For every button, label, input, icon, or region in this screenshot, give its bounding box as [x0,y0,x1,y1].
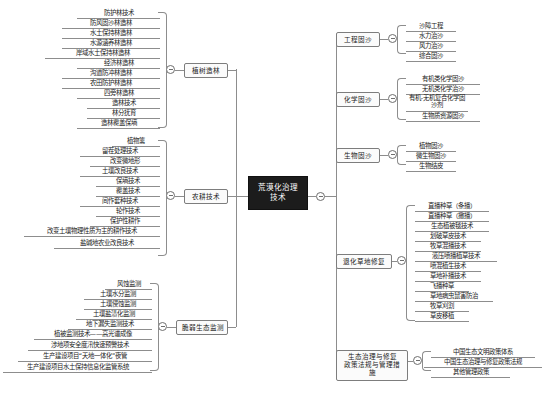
leaf-left-2-2[interactable]: 土壤侵蚀监测 [84,300,152,310]
branch-left-1-stem2 [175,196,184,197]
leaf-right-0-3[interactable]: 综合固沙 [406,52,456,62]
leaf-left-0-6[interactable]: 沟道防冲林造林 [62,69,160,79]
leaf-right-3-10[interactable]: 牧草刈割 [415,302,469,312]
leaf-right-3-11[interactable]: 草皮移植 [415,312,469,322]
branch-right-3-knob[interactable] [397,256,406,265]
branch-right-0-stem [380,39,388,40]
branch-right-4-line2: 政策法规与管理措施 [344,361,400,377]
center-collapse-knob[interactable] [316,192,325,201]
leaf-right-1-0[interactable]: 有机类化学固沙 [406,75,480,85]
branch-right-1-knob[interactable] [388,94,397,103]
leaf-left-0-10[interactable]: 林分抚育 [87,109,160,119]
leaf-right-3-6[interactable]: 喷混植生技术 [415,262,481,272]
branch-left-2-stem2 [167,327,176,328]
branch-right-2-bracket [397,145,406,165]
branch-left-2[interactable]: 脆弱生态监测 [176,320,228,335]
leaf-left-0-0[interactable]: 防护林技术 [77,9,160,19]
leaf-right-3-8[interactable]: 飞播种草 [415,282,469,292]
leaf-left-2-8[interactable]: 生产建设项目水土保持信息化监管系统 [3,363,152,373]
branch-right-4-knob[interactable] [413,356,422,365]
branch-left-0-stem2 [175,70,184,71]
leaf-right-3-2[interactable]: 生态植被毯技术 [415,222,489,232]
leaf-right-3-4[interactable]: 牧草混播技术 [415,242,481,252]
branch-right-2[interactable]: 生物固沙 [336,148,380,163]
leaf-left-1-3[interactable]: 土壤改良技术 [80,167,160,177]
leaf-left-2-1[interactable]: 土壤水分监测 [84,290,152,300]
leaf-right-3-7[interactable]: 草地补播技术 [415,272,481,282]
leaf-left-1-6[interactable]: 间作套种技术 [80,197,160,207]
leaf-left-2-7[interactable]: 生产建设项目“天地一体化”夜管 [18,352,152,362]
leaf-left-2-0[interactable]: 风蚀监测 [105,280,152,290]
leaf-left-1-7[interactable]: 轮作技术 [96,207,160,217]
branch-left-1[interactable]: 农耕技术 [184,189,228,204]
leaf-left-1-1[interactable]: 留茬处理技术 [80,147,160,157]
leaf-left-1-0[interactable]: 植物篱 [112,137,160,147]
left-spine [236,69,237,327]
leaf-left-0-11[interactable]: 造林覆盖保墒 [77,119,160,129]
branch-right-3[interactable]: 退化草地修复 [336,254,392,269]
leaf-left-0-8[interactable]: 四旁林造林 [77,89,160,99]
leaf-right-4-1[interactable]: 中国生态治理与修复政策法规 [424,358,542,368]
leaf-right-0-2[interactable]: 风力治沙 [406,42,456,52]
leaf-right-4-0[interactable]: 中国生态文明政策体系 [431,348,535,358]
leaf-left-0-4[interactable]: 岸域水土保持林造林 [45,49,160,59]
branch-left-2-stem [228,327,236,328]
leaf-left-0-9[interactable]: 造林技术 [87,99,160,109]
leaf-left-0-5[interactable]: 经济林造林 [77,59,160,69]
leaf-left-0-1[interactable]: 防风固沙林造林 [62,19,160,29]
leaf-right-1-2[interactable]: 有机-无机复合化学固沙剂 [406,95,468,112]
branch-left-0-stem [228,70,236,71]
branch-right-0[interactable]: 工程固沙 [336,32,380,47]
leaf-left-0-7[interactable]: 农田防护林造林 [62,79,160,89]
leaf-left-0-3[interactable]: 水源涵养林造林 [62,39,160,49]
leaf-right-0-0[interactable]: 沙障工程 [406,22,456,32]
leaf-left-1-8[interactable]: 保护性耕作 [90,217,160,227]
leaf-left-1-4[interactable]: 保墒技术 [96,177,160,187]
leaf-right-3-0[interactable]: 直播种草（条播） [415,202,489,212]
branch-left-0[interactable]: 植树造林 [184,63,228,78]
branch-right-0-bracket [397,25,406,54]
center-right-stem [308,196,316,197]
leaf-left-1-2[interactable]: 改变微地形 [90,157,160,167]
branch-right-3-bracket [406,205,415,321]
branch-right-4[interactable]: 生态治理与修复政策法规与管理措施 [336,350,408,381]
branch-left-1-knob[interactable] [166,191,175,200]
leaf-right-2-1[interactable]: 微生物固沙 [406,152,456,162]
branch-right-4-line1: 生态治理与修复 [348,353,397,361]
center-left-stem [236,196,248,197]
branch-right-0-knob[interactable] [388,34,397,43]
leaf-left-0-2[interactable]: 水土保持林造林 [62,29,160,39]
leaf-left-2-3[interactable]: 土壤盐渍化监测 [76,310,152,320]
leaf-left-2-6[interactable]: 涉地项安全度汛快速预警技术 [28,341,152,351]
branch-right-2-stem [380,155,388,156]
center-node[interactable]: 荒漠化治理技术 [248,176,308,210]
leaf-right-2-2[interactable]: 生物结皮 [406,162,456,172]
leaf-right-4-2[interactable]: 其他管理政策 [431,368,510,378]
leaf-left-1-10[interactable]: 盐碱地农业改良技术 [54,239,160,249]
leaf-right-3-9[interactable]: 草地病虫鼠害防治 [415,292,493,302]
branch-right-1[interactable]: 化学固沙 [336,92,380,107]
branch-left-2-knob[interactable] [158,322,167,331]
leaf-left-2-4[interactable]: 地下漏失监测技术 [68,320,152,330]
leaf-right-0-1[interactable]: 水力治沙 [406,32,456,42]
leaf-right-3-3[interactable]: 划破草皮技术 [415,232,481,242]
leaf-right-3-5[interactable]: 液压喷播植草技术 [415,252,497,262]
branch-left-0-knob[interactable] [166,65,175,74]
branch-right-1-bracket [397,78,406,120]
right-spine [336,38,337,358]
leaf-right-2-0[interactable]: 植物固沙 [406,142,456,152]
leaf-right-3-1[interactable]: 直播种草（撒播） [415,212,489,222]
leaf-left-2-5[interactable]: 植被监测技术——高光谱成像 [34,330,152,340]
leaf-left-1-5[interactable]: 覆盖技术 [96,187,160,197]
leaf-left-1-9[interactable]: 改变土壤物理性质为主的耕作技术 [24,227,160,237]
branch-right-2-knob[interactable] [388,150,397,159]
branch-right-1-stem [380,99,388,100]
branch-left-1-stem [228,196,236,197]
center-right-stem2 [325,196,336,197]
leaf-right-1-3[interactable]: 生物质资源固沙 [406,112,480,122]
